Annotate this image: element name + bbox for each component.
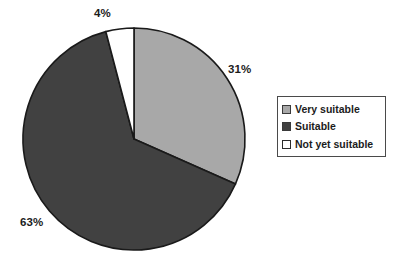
legend-label-very-suitable: Very suitable [295,104,360,115]
chart-legend: Very suitable Suitable Not yet suitable [277,96,386,157]
legend-item-not-yet-suitable[interactable]: Not yet suitable [282,136,382,152]
legend-swatch-very-suitable [282,105,291,114]
pie-label-suitable: 63% [20,217,43,229]
pie-label-very-suitable: 31% [228,64,251,76]
legend-swatch-suitable [282,122,291,131]
legend-item-very-suitable[interactable]: Very suitable [282,101,382,117]
pie-chart: 4% 31% 63% Very suitable Suitable Not ye… [0,0,396,262]
legend-swatch-not-yet-suitable [282,140,291,149]
legend-label-not-yet-suitable: Not yet suitable [295,139,373,150]
legend-item-suitable[interactable]: Suitable [282,119,382,135]
legend-label-suitable: Suitable [295,121,336,132]
pie-label-not-yet-suitable: 4% [94,8,111,20]
